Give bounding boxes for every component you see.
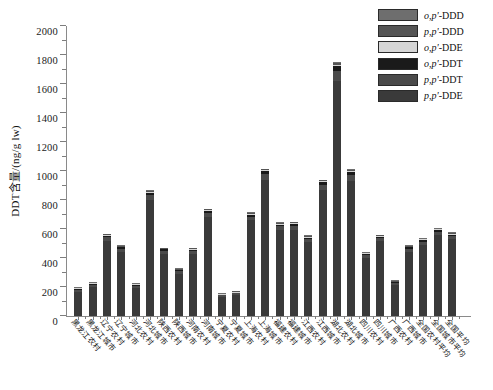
legend-swatch xyxy=(378,90,418,102)
bar-segment xyxy=(290,230,298,316)
bar-segment xyxy=(333,71,341,81)
bar-segment xyxy=(132,288,140,316)
bar-segment xyxy=(218,297,226,316)
bar-column[interactable] xyxy=(304,235,312,316)
legend-item[interactable]: o,p'-DDT xyxy=(378,58,464,70)
bar-column[interactable] xyxy=(89,282,97,316)
bar-segment xyxy=(117,252,125,316)
bar-column[interactable] xyxy=(376,235,384,316)
y-axis-title-text: DDT含量/(ng/g lw) xyxy=(6,125,22,216)
bar-segment xyxy=(74,292,82,316)
bar-segment xyxy=(319,190,327,316)
bar-column[interactable] xyxy=(319,180,327,316)
bar-column[interactable] xyxy=(391,280,399,316)
bar-segment xyxy=(160,254,168,316)
legend-label: p,p'-DDT xyxy=(424,74,463,85)
bar-segment xyxy=(391,285,399,316)
bar-column[interactable] xyxy=(261,169,269,316)
bar-segment xyxy=(247,220,255,316)
legend-item[interactable]: p,p'-DDT xyxy=(378,74,464,86)
legend-label: o,p'-DDE xyxy=(424,42,463,53)
bar-column[interactable] xyxy=(333,62,341,316)
legend-item[interactable]: o,p'-DDE xyxy=(378,41,464,53)
bar-segment xyxy=(448,239,456,316)
bar-segment xyxy=(419,245,427,316)
bar-column[interactable] xyxy=(160,248,168,316)
legend-swatch xyxy=(378,9,418,21)
bar-segment xyxy=(276,230,284,316)
legend-label: p,p'-DDD xyxy=(424,26,464,37)
bar-column[interactable] xyxy=(204,209,212,316)
bar-column[interactable] xyxy=(232,291,240,316)
bar-column[interactable] xyxy=(218,293,226,316)
bar-segment xyxy=(146,200,154,316)
legend-swatch xyxy=(378,74,418,86)
bar-column[interactable] xyxy=(448,232,456,316)
bar-column[interactable] xyxy=(290,222,298,317)
ddt-stacked-bar-chart: DDT含量/(ng/g lw) 020040060080010001200140… xyxy=(0,0,493,390)
bar-column[interactable] xyxy=(362,252,370,316)
bar-segment xyxy=(89,287,97,316)
bar-column[interactable] xyxy=(276,222,284,316)
bar-column[interactable] xyxy=(175,268,183,316)
bar-segment xyxy=(405,252,413,316)
legend: o,p'-DDDp,p'-DDDo,p'-DDEo,p'-DDTp,p'-DDT… xyxy=(378,9,464,102)
legend-swatch xyxy=(378,25,418,37)
x-axis-labels: 黑龙江农村黑龙江城市辽宁农村辽宁城市河北农村河北城市陕西农村陕西城市河南农村河南… xyxy=(0,318,493,390)
legend-item[interactable]: o,p'-DDD xyxy=(378,9,464,21)
bar-column[interactable] xyxy=(434,228,442,316)
legend-swatch xyxy=(378,58,418,70)
bar-column[interactable] xyxy=(74,287,82,316)
bar-segment xyxy=(376,241,384,316)
bar-column[interactable] xyxy=(103,234,111,316)
legend-label: o,p'-DDD xyxy=(424,10,464,21)
bar-segment xyxy=(362,258,370,316)
bar-segment xyxy=(189,254,197,316)
bar-segment xyxy=(304,242,312,316)
bar-segment xyxy=(261,180,269,316)
bar-segment xyxy=(175,274,183,316)
bar-column[interactable] xyxy=(405,245,413,316)
bar-segment xyxy=(103,241,111,316)
legend-item[interactable]: p,p'-DDD xyxy=(378,25,464,37)
legend-swatch xyxy=(378,41,418,53)
bar-segment xyxy=(434,235,442,316)
bar-column[interactable] xyxy=(132,283,140,316)
legend-item[interactable]: p,p'-DDE xyxy=(378,90,464,102)
legend-label: p,p'-DDE xyxy=(424,90,463,101)
bar-segment xyxy=(333,81,341,316)
bar-segment xyxy=(232,295,240,316)
legend-label: o,p'-DDT xyxy=(424,58,463,69)
y-axis-title: DDT含量/(ng/g lw) xyxy=(6,26,22,316)
bar-column[interactable] xyxy=(189,248,197,316)
bar-segment xyxy=(204,217,212,316)
x-axis-line xyxy=(66,316,471,317)
bar-segment xyxy=(347,181,355,316)
bar-column[interactable] xyxy=(419,238,427,316)
bar-column[interactable] xyxy=(347,169,355,316)
bar-column[interactable] xyxy=(247,212,255,316)
bar-column[interactable] xyxy=(146,190,154,316)
bar-column[interactable] xyxy=(117,245,125,316)
